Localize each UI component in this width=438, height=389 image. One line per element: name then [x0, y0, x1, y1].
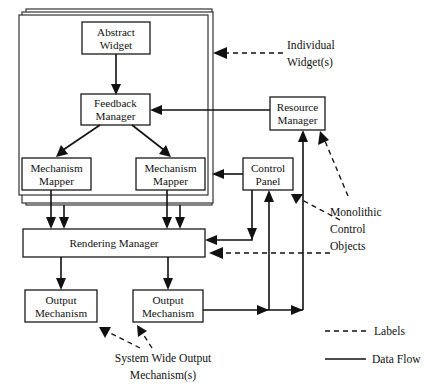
flow-rendering-to-output-right — [163, 257, 173, 290]
monolithic-label-2: Control — [330, 223, 365, 236]
resource-manager-label-1: Resource — [277, 101, 319, 113]
output-mechanism-left-label-1: Output — [45, 294, 77, 306]
node-output-mechanism-left[interactable]: Output Mechanism — [25, 290, 97, 322]
feedback-manager-label-2: Manager — [96, 110, 136, 122]
output-mechanism-right-label-2: Mechanism — [142, 307, 194, 319]
node-output-mechanism-right[interactable]: Output Mechanism — [133, 290, 203, 322]
flow-bus-to-control-panel — [264, 190, 274, 310]
node-mechanism-mapper-left[interactable]: Mechanism Mapper — [22, 158, 91, 190]
feedback-manager-label-1: Feedback — [94, 97, 137, 109]
abstract-widget-label-1: Abstract — [97, 26, 136, 38]
flow-rendering-to-output-left — [56, 257, 66, 290]
flow-widget-frame-to-rendering-right — [175, 205, 185, 229]
control-panel-label-2: Panel — [256, 175, 281, 187]
mechanism-mapper-right-label-2: Mapper — [153, 175, 188, 187]
control-panel-label-1: Control — [251, 162, 285, 174]
leader-monolithic-to-resource-manager — [318, 131, 348, 196]
rendering-manager-label: Rendering Manager — [69, 237, 158, 249]
flow-output-right-to-bus — [203, 305, 303, 315]
mechanism-mapper-right-label-1: Mechanism — [144, 162, 196, 174]
individual-widgets-label-1: Individual — [287, 39, 335, 52]
abstract-widget-label-2: Widget — [100, 39, 133, 51]
leader-system-wide-to-output-left — [99, 327, 140, 348]
node-rendering-manager[interactable]: Rendering Manager — [23, 229, 205, 257]
legend-dataflow-text: Data Flow — [372, 353, 421, 366]
system-wide-label-2: Mechanism(s) — [130, 369, 196, 382]
monolithic-label-1: Monolithic — [330, 206, 382, 219]
flow-widget-frame-to-rendering-left — [59, 205, 69, 229]
annotation-system-wide-output: System Wide Output Mechanism(s) — [115, 352, 212, 382]
legend: Labels Data Flow — [325, 325, 421, 366]
mechanism-mapper-left-label-2: Mapper — [39, 175, 74, 187]
output-mechanism-left-label-2: Mechanism — [35, 307, 87, 319]
architecture-diagram: Abstract Widget Feedback Manager Mechani… — [0, 0, 438, 389]
annotation-individual-widgets: Individual Widget(s) — [287, 39, 335, 69]
system-wide-label-1: System Wide Output — [115, 352, 212, 365]
output-mechanism-right-label-1: Output — [152, 294, 184, 306]
node-feedback-manager[interactable]: Feedback Manager — [81, 94, 150, 125]
leader-individual-widgets — [213, 47, 283, 59]
flow-bus-to-resource-manager — [298, 130, 308, 310]
legend-labels-text: Labels — [374, 325, 405, 338]
individual-widgets-label-2: Widget(s) — [287, 56, 333, 69]
node-mechanism-mapper-right[interactable]: Mechanism Mapper — [136, 158, 205, 190]
leader-system-wide-to-output-right — [137, 325, 152, 348]
node-abstract-widget[interactable]: Abstract Widget — [82, 22, 150, 54]
node-resource-manager[interactable]: Resource Manager — [270, 97, 325, 130]
node-control-panel[interactable]: Control Panel — [243, 158, 293, 190]
mechanism-mapper-left-label-1: Mechanism — [30, 162, 82, 174]
monolithic-label-3: Objects — [330, 240, 366, 253]
resource-manager-label-2: Manager — [278, 114, 318, 126]
flow-control-panel-to-widget-frame — [212, 169, 243, 179]
annotation-monolithic-control-objects: Monolithic Control Objects — [330, 206, 382, 253]
